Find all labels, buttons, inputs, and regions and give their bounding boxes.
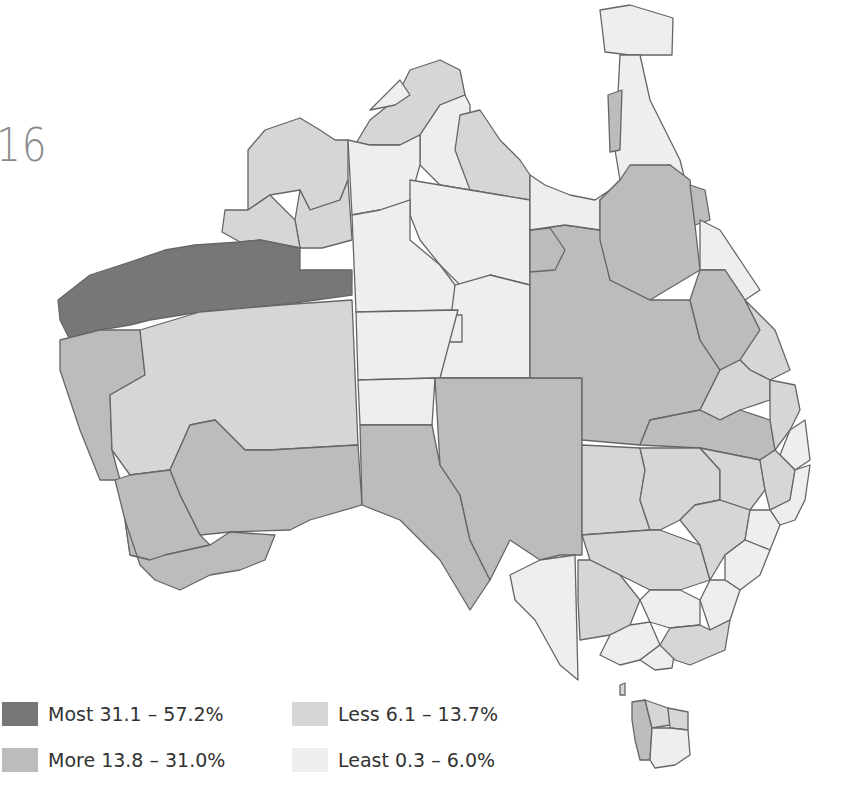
legend-label-more: More 13.8 – 31.0% [48,749,225,771]
region-tas-north-east[interactable] [668,708,688,730]
region-cape-york-tip[interactable] [600,5,673,55]
region-nsw-south-east[interactable] [700,580,740,630]
legend-label-most: Most 31.1 – 57.2% [48,703,224,725]
legend-item-least: Least 0.3 – 6.0% [292,746,495,774]
region-tas-south[interactable] [650,728,690,768]
legend-item-most: Most 31.1 – 57.2% [2,700,224,728]
region-nsw-far-west[interactable] [582,445,650,535]
legend-label-least: Least 0.3 – 6.0% [338,749,495,771]
map-legend: Most 31.1 – 57.2% More 13.8 – 31.0% Less… [0,700,600,800]
legend-item-more: More 13.8 – 31.0% [2,746,225,774]
region-king-island[interactable] [620,683,625,695]
region-sa-south-east[interactable] [510,555,578,680]
legend-swatch-most [2,702,38,726]
region-nt-south[interactable] [358,378,435,425]
legend-swatch-least [292,748,328,772]
legend-swatch-less [292,702,328,726]
region-qld-north[interactable] [600,165,700,300]
legend-label-less: Less 6.1 – 13.7% [338,703,498,725]
legend-item-less: Less 6.1 – 13.7% [292,700,498,728]
australia-map [0,0,864,801]
legend-swatch-more [2,748,38,772]
region-cape-york-west-strip[interactable] [608,90,622,152]
region-nt-south-west[interactable] [356,310,458,380]
region-kimberley-north[interactable] [248,118,348,210]
